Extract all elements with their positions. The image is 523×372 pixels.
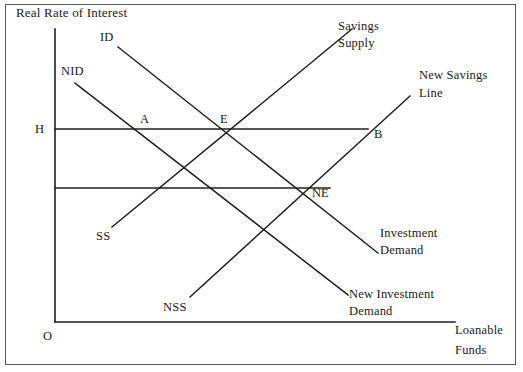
curve-label-nss: NSS: [163, 300, 187, 315]
origin-label: O: [43, 329, 52, 344]
rate-h-label: H: [35, 122, 44, 137]
curve-new-investment-demand: [75, 83, 348, 295]
curve-label-ss: SS: [96, 229, 110, 244]
point-label-e: E: [220, 112, 228, 126]
curve-label-nid: NID: [61, 64, 84, 79]
curve-label-investment-demand-line2: Demand: [380, 243, 424, 258]
loanable-funds-figure: Real Rate of Interest Loanable Funds O H…: [0, 0, 523, 372]
x-axis-title-line2: Funds: [455, 343, 487, 358]
curve-investment-demand: [118, 47, 378, 253]
curve-label-new-investment-demand-line2: Demand: [349, 304, 393, 319]
point-label-ne: NE: [312, 186, 329, 200]
curve-label-id: ID: [100, 30, 114, 45]
y-axis-title: Real Rate of Interest: [16, 5, 127, 20]
chart-lines: [0, 0, 523, 372]
curve-label-investment-demand-line1: Investment: [380, 226, 438, 241]
point-label-a: A: [140, 112, 149, 126]
curve-label-savings-supply-line1: Savings: [338, 19, 379, 34]
curve-label-savings-supply-line2: Supply: [338, 36, 375, 51]
point-label-b: B: [374, 127, 382, 141]
curve-label-new-investment-demand-line1: New Investment: [349, 287, 434, 302]
curve-label-new-savings-line2: Line: [419, 86, 443, 101]
x-axis-title-line1: Loanable: [455, 323, 503, 338]
curve-label-new-savings-line1: New Savings: [419, 68, 488, 83]
